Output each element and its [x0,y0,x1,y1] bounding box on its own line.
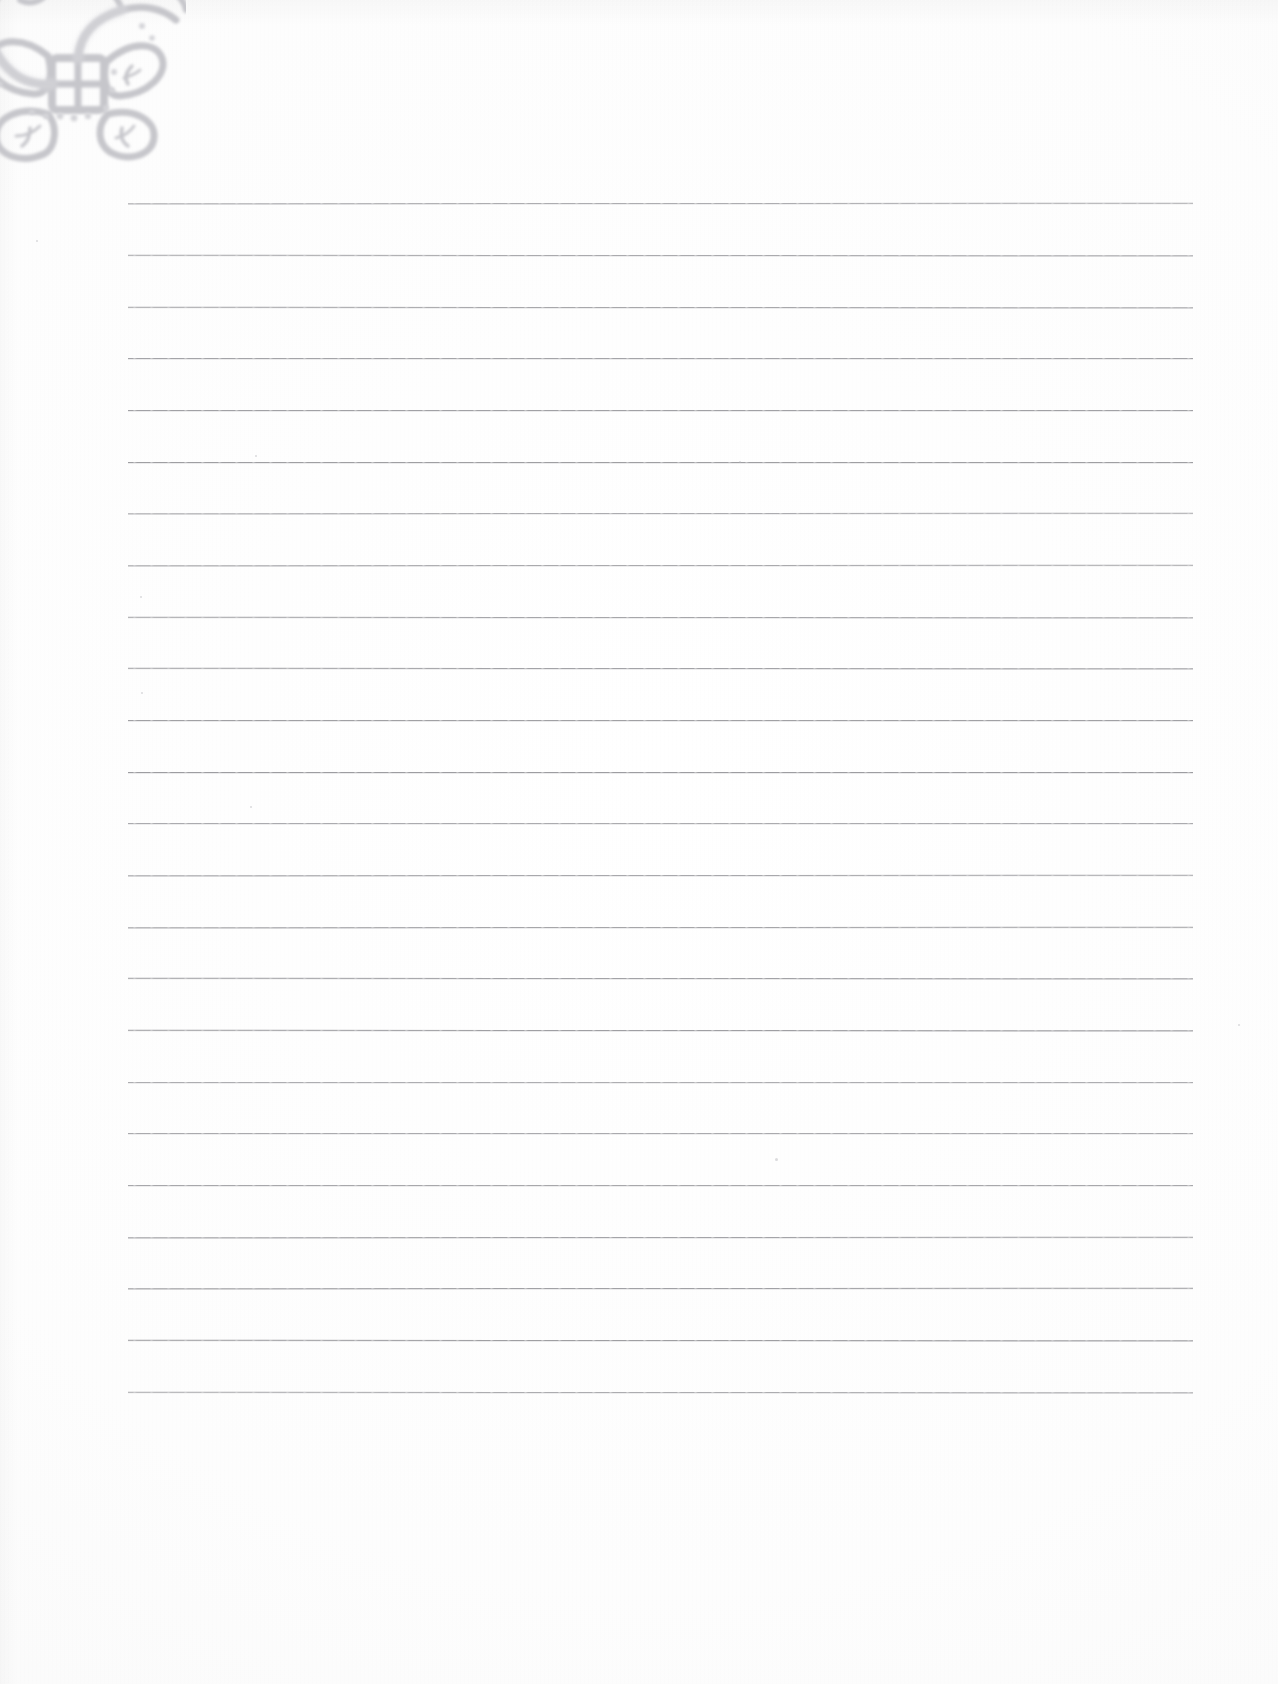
ruled-line [128,358,1193,359]
scan-speck [140,596,142,598]
ruled-line [128,203,1193,205]
ruled-line [128,875,1193,876]
ruled-line [128,978,1193,980]
ruled-line [128,927,1193,929]
ruled-line [128,668,1193,669]
scan-speck [739,461,741,463]
ruled-line [128,255,1193,257]
ruled-line [128,1133,1193,1134]
ruled-line [128,1185,1193,1186]
ruled-line [128,565,1193,567]
ruled-line [128,1288,1193,1290]
scan-speck [36,240,38,242]
ruled-lines-group [0,0,1278,1684]
ruled-line [128,617,1193,619]
scan-speck [255,455,257,457]
scanned-page [0,0,1278,1684]
ruled-line [128,720,1193,721]
ruled-line [128,823,1193,824]
ruled-line [128,410,1193,411]
ruled-line [128,513,1193,514]
ruled-line [128,1392,1193,1393]
scan-speck [250,806,252,808]
ruled-line [128,1237,1193,1238]
ruled-line [128,1340,1193,1342]
scan-speck [1238,1024,1240,1026]
ruled-line [128,307,1193,308]
scan-speck [775,1158,778,1161]
ruled-line [128,462,1193,463]
ruled-line [128,1030,1193,1031]
ruled-line [128,772,1193,773]
scan-speck [141,692,143,694]
ruled-line [128,1082,1193,1083]
